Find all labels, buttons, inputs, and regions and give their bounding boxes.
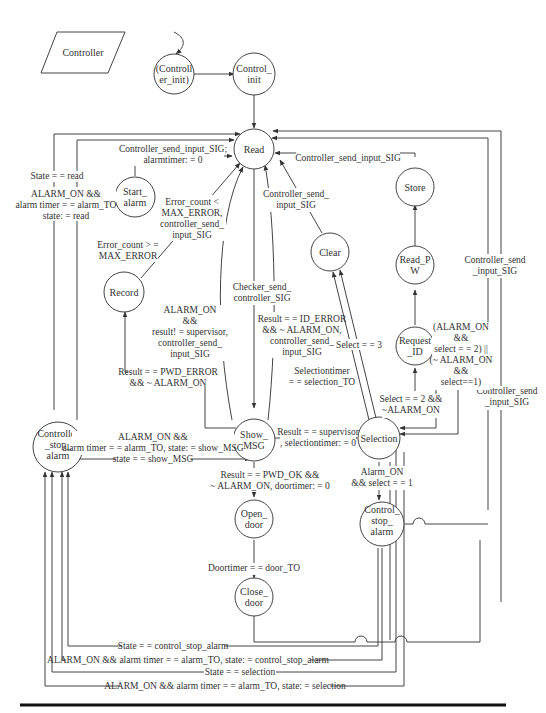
node-control-init[interactable]: Control_ init <box>233 53 275 95</box>
node-clear[interactable]: Clear <box>311 233 349 271</box>
svg-text:MAX_ERROR,: MAX_ERROR, <box>162 208 223 218</box>
svg-text:Control_: Control_ <box>364 504 401 515</box>
label-show-msg-to-controller-stop: ALARM_ON && alarm timer = = alarm_TO, st… <box>62 431 243 455</box>
node-request-id[interactable]: Request _ID <box>396 327 434 365</box>
svg-text:Store: Store <box>404 182 426 193</box>
svg-text:Result = = PWD_ERROR: Result = = PWD_ERROR <box>118 367 218 377</box>
svg-text:Select = = 2 &&: Select = = 2 && <box>380 394 444 404</box>
svg-text:controller_send_: controller_send_ <box>270 336 334 346</box>
svg-text:Doortimer = = door_TO: Doortimer = = door_TO <box>208 563 300 573</box>
label-bottom-4: ALARM_ON && alarm timer = = alarm_TO, st… <box>104 681 346 692</box>
edge-labels: Controller_send_input_SIG; alarmtimer: =… <box>16 144 544 692</box>
label-selection-to-control-stop: Alarm_ON && select = = 1 <box>350 466 416 490</box>
node-show-msg[interactable]: Show_ MSG <box>233 419 275 461</box>
svg-text:Read: Read <box>244 144 265 155</box>
node-close-door[interactable]: Close_ door <box>235 578 273 616</box>
svg-text:select = = 2) ||: select = = 2) || <box>434 344 488 355</box>
svg-text:state = = show_MSG: state = = show_MSG <box>113 454 194 464</box>
svg-text:= = selection_TO: = = selection_TO <box>289 377 356 387</box>
svg-text:&& ~ ALARM_ON: && ~ ALARM_ON <box>130 378 207 388</box>
label-open-to-close-door: Doortimer = = door_TO <box>208 563 302 575</box>
svg-text:Request: Request <box>399 335 431 346</box>
svg-text:Controller_send_: Controller_send_ <box>263 189 329 199</box>
svg-text:_input_SIG: _input_SIG <box>472 266 517 276</box>
label-right-to-read: Controller_send _input_SIG <box>460 254 530 278</box>
node-control-stop-alarm[interactable]: Control_ stop_ alarm <box>360 502 404 546</box>
svg-text:state: = read: state: = read <box>43 211 90 221</box>
svg-text:alarmtimer: = 0: alarmtimer: = 0 <box>143 155 202 165</box>
svg-text:init: init <box>247 74 261 85</box>
state-diagram: Controller <box>0 0 546 713</box>
svg-text:Result = = ID_ERROR: Result = = ID_ERROR <box>258 314 347 324</box>
svg-text:~ ALARM_ON, doortimer: = 0: ~ ALARM_ON, doortimer: = 0 <box>210 481 330 491</box>
svg-text:_input_SIG: _input_SIG <box>484 397 529 407</box>
label-bottom-1: State = = control_stop_alarm <box>118 641 229 652</box>
node-read[interactable]: Read <box>234 129 274 169</box>
node-store[interactable]: Store <box>396 168 434 206</box>
svg-text:controller_SIG: controller_SIG <box>234 293 291 303</box>
label-show-msg-to-open-door: Result = = PWD_OK && ~ ALARM_ON, doortim… <box>208 468 338 492</box>
label-clear-to-read: Controller_send_ input_SIG <box>262 188 330 212</box>
node-start-alarm[interactable]: Start_ alarm <box>115 177 155 217</box>
svg-text:MSG: MSG <box>243 440 265 451</box>
label-start-alarm-to-read: Controller_send_input_SIG; alarmtimer: =… <box>119 144 227 166</box>
svg-text:Open_: Open_ <box>241 508 269 519</box>
svg-text:Show_: Show_ <box>240 429 269 440</box>
svg-text:Error_count > =: Error_count > = <box>97 240 158 250</box>
svg-text:controller_send_: controller_send_ <box>160 219 224 229</box>
svg-text:ALARM_ON && alarm timer = = al: ALARM_ON && alarm timer = = alarm_TO, st… <box>47 655 329 665</box>
node-selection[interactable]: Selection <box>358 417 400 459</box>
svg-text:Error_count <: Error_count < <box>165 197 219 207</box>
label-read-to-show-msg: Checker_send_ controller_SIG <box>226 281 298 305</box>
svg-text:Result = = supervisor: Result = = supervisor <box>277 427 360 437</box>
svg-text:Checker_send_: Checker_send_ <box>233 282 292 292</box>
label-bottom-3: State = = selection <box>204 667 276 678</box>
node-open-door[interactable]: Open_ door <box>235 500 273 538</box>
svg-text:&& select = = 1: && select = = 1 <box>351 478 413 488</box>
svg-text:select==1): select==1) <box>441 377 481 388</box>
svg-text:W: W <box>410 265 420 276</box>
svg-text:er_init): er_init) <box>159 74 188 86</box>
node-record[interactable]: Record <box>104 272 144 312</box>
svg-text:Selection: Selection <box>360 433 397 444</box>
svg-text:MAX_ERROR: MAX_ERROR <box>99 251 158 261</box>
label-record-to-read: Error_count < MAX_ERROR, controller_send… <box>158 195 226 241</box>
svg-text:Control_: Control_ <box>236 63 273 74</box>
svg-text:Record: Record <box>110 287 139 298</box>
svg-text:(~ ALARM_ON: (~ ALARM_ON <box>430 355 493 366</box>
label-controller-stop-to-show-msg: state = = show_MSG <box>113 453 194 464</box>
svg-text:result! = supervisor,: result! = supervisor, <box>152 327 228 337</box>
label-state-read: State = = read <box>30 171 86 182</box>
svg-text:ALARM_ON &&: ALARM_ON && <box>118 432 189 442</box>
label-record-to-start-alarm: Error_count > = MAX_ERROR <box>97 238 158 262</box>
svg-text:&&: && <box>454 333 469 343</box>
label-bottom-2: ALARM_ON && alarm timer = = alarm_TO, st… <box>47 655 329 666</box>
svg-text:input_SIG: input_SIG <box>170 349 210 359</box>
svg-text:Result = = PWD_OK &&: Result = = PWD_OK && <box>221 470 320 480</box>
svg-text:~ALARM_ON: ~ALARM_ON <box>382 405 440 415</box>
svg-text:State = = selection: State = = selection <box>205 667 276 677</box>
svg-text:input_SIG: input_SIG <box>282 347 322 357</box>
svg-text:Selectiontimer: Selectiontimer <box>294 366 350 376</box>
svg-text:Read_P: Read_P <box>399 254 431 265</box>
label-alarm-to-read: ALARM_ON && alarm timer = = alarm_TO sta… <box>16 187 117 221</box>
svg-text:Start_: Start_ <box>123 186 148 197</box>
label-show-msg-to-selection: Result = = supervisor , selectiontimer: … <box>277 427 360 451</box>
label-show-msg-to-record: Result = = PWD_ERROR && ~ ALARM_ON <box>118 362 218 388</box>
svg-text:(ALARM_ON: (ALARM_ON <box>433 322 489 333</box>
svg-text:Alarm_ON: Alarm_ON <box>361 467 404 477</box>
svg-text:controller_send_: controller_send_ <box>158 338 222 348</box>
label-selection-timeout: Selectiontimer = = selection_TO <box>289 364 356 388</box>
svg-text:Select = = 3: Select = = 3 <box>336 340 382 350</box>
svg-text:_ID: _ID <box>406 346 423 357</box>
svg-text:input_SIG: input_SIG <box>172 230 212 240</box>
svg-text:State = = read: State = = read <box>30 171 83 181</box>
svg-text:alarm: alarm <box>371 526 394 537</box>
title-label: Controller <box>62 47 104 58</box>
node-controller-init[interactable]: (Controll er_init) <box>154 54 194 94</box>
svg-text:Close_: Close_ <box>240 586 269 597</box>
svg-text:ALARM_ON && alarm timer = = al: ALARM_ON && alarm timer = = alarm_TO, st… <box>104 681 346 691</box>
node-read-pw[interactable]: Read_P W <box>396 246 434 284</box>
svg-text:input_SIG: input_SIG <box>276 200 316 210</box>
svg-text:State = = control_stop_alarm: State = = control_stop_alarm <box>118 641 229 651</box>
